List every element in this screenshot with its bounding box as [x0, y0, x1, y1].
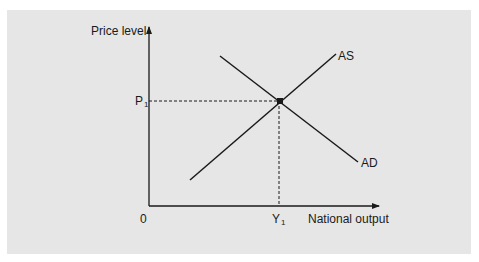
p1-label: P1 — [135, 95, 148, 107]
ad-as-diagram — [0, 0, 479, 262]
x-axis-label: National output — [308, 213, 389, 225]
y1-label-main: Y — [272, 212, 280, 226]
equilibrium-point — [277, 98, 283, 104]
y1-label-sub: 1 — [281, 218, 285, 227]
ad-curve-label: AD — [361, 157, 378, 169]
y-axis-label: Price level — [91, 25, 146, 37]
ad-curve — [220, 56, 358, 162]
as-curve-label: AS — [338, 50, 354, 62]
origin-label: 0 — [140, 213, 147, 225]
y1-label: Y1 — [272, 213, 285, 225]
as-curve — [190, 54, 336, 180]
p1-label-main: P — [135, 94, 143, 108]
p1-label-sub: 1 — [144, 100, 148, 109]
